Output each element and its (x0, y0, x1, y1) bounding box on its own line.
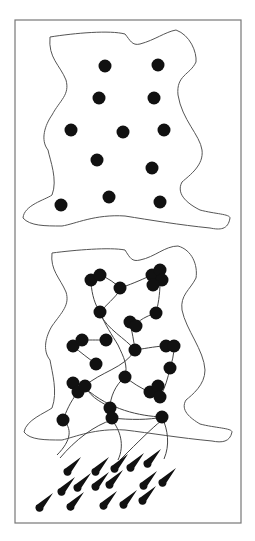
particle-node (57, 414, 70, 427)
droplet-icon (74, 473, 91, 492)
particle-node (119, 371, 132, 384)
particle-node (94, 269, 107, 282)
droplet-icon (144, 449, 161, 468)
particle-node (106, 412, 119, 425)
network-edge (112, 417, 162, 419)
particle-node (164, 362, 177, 375)
network-edge (112, 420, 121, 460)
particle-node (147, 279, 160, 292)
droplet-icon (159, 468, 176, 487)
particle-node (158, 124, 171, 137)
droplet-icon (64, 457, 81, 476)
particle-node (146, 162, 159, 175)
droplet-icon (120, 490, 137, 509)
figure-frame (15, 20, 241, 523)
particle-node (99, 60, 112, 73)
particle-node (91, 154, 104, 167)
panel-dispersed-particles (23, 30, 230, 229)
droplet-icon (92, 457, 109, 476)
region-outline (24, 246, 232, 442)
droplet-icon (140, 471, 157, 490)
particle-node (154, 196, 167, 209)
droplet-icon (127, 453, 144, 472)
particle-node (152, 380, 165, 393)
particle-node (76, 334, 89, 347)
droplet-icon (100, 491, 117, 510)
droplet-icon (67, 492, 84, 511)
particle-node (150, 307, 163, 320)
panel-networked-particles (24, 246, 232, 460)
particle-node (94, 306, 107, 319)
particle-node (65, 124, 78, 137)
particle-node (114, 282, 127, 295)
particle-node (55, 199, 68, 212)
droplet-icon (36, 493, 53, 512)
particle-node (117, 126, 130, 139)
particle-node (100, 334, 113, 347)
particle-node (103, 191, 116, 204)
particle-node (90, 358, 103, 371)
droplets-group (36, 449, 176, 512)
particle-node (130, 320, 143, 333)
particle-node (152, 59, 165, 72)
particle-diagram (0, 0, 255, 541)
particle-node (93, 92, 106, 105)
particle-node (154, 391, 167, 404)
droplet-icon (58, 477, 75, 496)
particle-node (148, 92, 161, 105)
particle-node (168, 340, 181, 353)
particle-node (156, 411, 169, 424)
particle-node (79, 380, 92, 393)
particle-node (129, 344, 142, 357)
